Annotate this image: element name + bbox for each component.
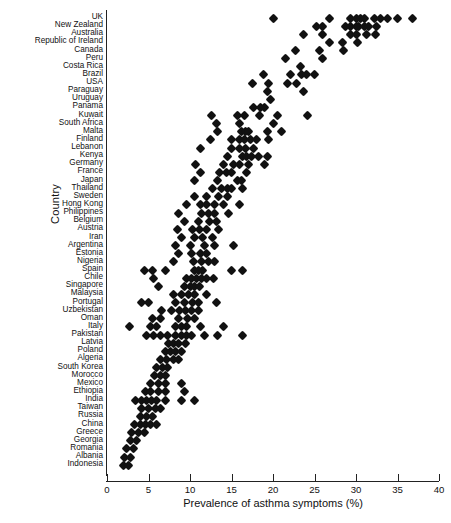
data-point — [383, 13, 393, 23]
data-point — [218, 322, 228, 332]
x-axis-tick-label: 0 — [104, 484, 109, 495]
data-point — [213, 224, 223, 234]
x-axis-tick — [439, 474, 440, 481]
data-point — [177, 395, 187, 405]
data-point — [407, 13, 417, 23]
data-point — [237, 184, 247, 194]
data-point — [177, 233, 187, 243]
data-point — [227, 265, 237, 275]
data-point — [124, 322, 134, 332]
data-point — [189, 192, 199, 202]
x-axis-tick-label: 40 — [434, 484, 445, 495]
data-point — [264, 78, 274, 88]
data-point — [160, 265, 170, 275]
data-point — [229, 241, 239, 251]
data-point — [206, 135, 216, 145]
plot-area — [107, 10, 439, 476]
data-point — [268, 13, 278, 23]
data-point — [189, 176, 199, 186]
data-point — [212, 127, 222, 137]
data-point — [173, 208, 183, 218]
y-axis-tick-labels: UKNew ZealandAustraliaRepublic of Irelan… — [0, 0, 103, 480]
data-point — [303, 111, 313, 121]
data-point — [324, 13, 334, 23]
x-axis-title: Prevalence of asthma symptoms (%) — [107, 497, 439, 509]
data-point — [310, 70, 320, 80]
data-point — [154, 281, 164, 291]
data-point — [276, 127, 286, 137]
x-axis-tick-label: 5 — [146, 484, 151, 495]
x-axis-tick-label: 25 — [309, 484, 320, 495]
data-point — [189, 395, 199, 405]
data-point — [324, 37, 334, 47]
data-point — [240, 111, 250, 121]
data-point — [218, 200, 228, 210]
y-axis-tick-label: Indonesia — [67, 460, 103, 468]
data-point — [196, 168, 206, 178]
x-axis-tick-label: 30 — [351, 484, 362, 495]
data-point — [258, 70, 268, 80]
data-point — [393, 13, 403, 23]
x-axis-tick-label: 10 — [185, 484, 196, 495]
data-point — [318, 29, 328, 39]
data-point — [248, 143, 258, 153]
data-point — [208, 273, 218, 283]
data-point — [168, 257, 178, 267]
data-point — [299, 29, 309, 39]
data-point — [212, 330, 222, 340]
data-point — [235, 200, 245, 210]
data-point — [202, 289, 212, 299]
data-point — [260, 159, 270, 169]
data-point — [299, 86, 309, 96]
data-point — [241, 168, 251, 178]
x-axis-tick-label: 15 — [226, 484, 237, 495]
data-point — [280, 54, 290, 64]
data-point — [223, 208, 233, 218]
asthma-prevalence-scatter-figure: Country UKNew ZealandAustraliaRepublic o… — [0, 0, 451, 523]
x-axis-tick-label: 35 — [392, 484, 403, 495]
data-point — [179, 216, 189, 226]
data-point — [212, 298, 222, 308]
x-axis-tick-label: 20 — [268, 484, 279, 495]
data-point — [253, 151, 263, 161]
data-point — [247, 78, 257, 88]
data-point — [264, 135, 274, 145]
data-point — [237, 330, 247, 340]
data-point — [182, 200, 192, 210]
data-point — [291, 78, 301, 88]
data-point — [210, 257, 220, 267]
data-point — [210, 241, 220, 251]
data-point — [152, 420, 162, 430]
x-axis-line — [106, 481, 439, 482]
data-point — [290, 46, 300, 56]
data-point — [144, 298, 154, 308]
data-point — [318, 54, 328, 64]
data-point — [196, 143, 206, 153]
data-point — [353, 37, 363, 47]
data-point — [370, 29, 380, 39]
data-point — [160, 395, 170, 405]
data-point — [339, 46, 349, 56]
data-point — [237, 265, 247, 275]
data-point — [195, 281, 205, 291]
data-point — [199, 330, 209, 340]
